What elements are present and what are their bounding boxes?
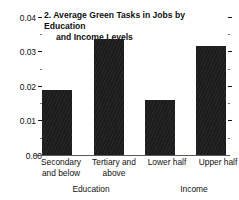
right-tick-0.02 xyxy=(228,86,232,87)
y-tick-label: 0.02 xyxy=(20,82,36,92)
right-tick-0.035 xyxy=(228,34,230,35)
y-tick-0.03: 0.03 xyxy=(20,46,42,56)
bar-tertiary-and-above xyxy=(94,39,124,155)
category-label-line1: Upper half xyxy=(193,157,239,168)
bar-chart: 0.04 0.03 0.02 0.01 0.00 xyxy=(0,0,239,200)
group-label-income: Income xyxy=(146,184,239,195)
bar-lower-half xyxy=(145,100,175,155)
category-label-lower-half: Lower half xyxy=(142,157,192,168)
category-label-secondary-and-below: Secondary and below xyxy=(34,157,88,178)
category-label-line1: Secondary xyxy=(34,157,88,168)
y-tick-label: 0.03 xyxy=(20,47,36,57)
category-label-line2: and below xyxy=(34,168,88,179)
category-label-line1: Lower half xyxy=(142,157,192,168)
bar-upper-half xyxy=(196,46,226,155)
bar-secondary-and-below xyxy=(42,90,72,155)
category-label-upper-half: Upper half xyxy=(193,157,239,168)
right-tick-0.025 xyxy=(228,69,230,70)
right-tick-0.015 xyxy=(228,103,230,104)
category-label-line1: Tertiary and xyxy=(86,157,142,168)
right-tick-0.03 xyxy=(228,51,232,52)
right-tick-0.04 xyxy=(228,17,232,18)
plot-area xyxy=(42,17,226,155)
right-tick-0.005 xyxy=(228,138,230,139)
category-label-line2: above xyxy=(86,168,142,179)
category-label-tertiary-and-above: Tertiary and above xyxy=(86,157,142,178)
y-tick-label: 0.01 xyxy=(20,116,36,126)
x-axis-baseline xyxy=(34,155,230,156)
right-tick-0.01 xyxy=(228,120,232,121)
y-tick-0.04: 0.04 xyxy=(20,12,42,22)
category-labels: Secondary and below Tertiary and above L… xyxy=(34,157,230,181)
y-tick-0.02: 0.02 xyxy=(20,81,42,91)
y-tick-label: 0.04 xyxy=(20,13,36,23)
y-axis: 0.04 0.03 0.02 0.01 0.00 xyxy=(0,0,42,175)
right-axis-ticks xyxy=(228,0,239,175)
group-labels: Education Income xyxy=(34,184,230,196)
y-tick-0.01: 0.01 xyxy=(20,115,42,125)
group-label-education: Education xyxy=(40,184,142,195)
